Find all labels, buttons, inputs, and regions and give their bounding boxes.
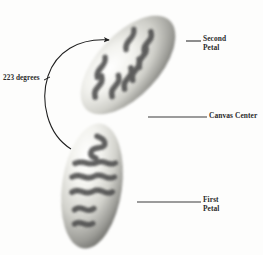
diagram-canvas: 223 degrees Second Petal Canvas Center F… [0,0,263,255]
callout-second-petal-line1: Second [203,34,226,43]
callout-first-petal-line2: Petal [203,204,220,213]
callout-canvas-center: Canvas Center [209,111,257,120]
callout-second-petal-line2: Petal [203,43,226,52]
angle-label: 223 degrees [3,74,40,83]
rotation-arrow [45,40,109,149]
callout-canvas-center-line1: Canvas Center [209,111,257,120]
callout-first-petal: First Petal [203,195,220,213]
callout-first-petal-line1: First [203,195,219,204]
callout-second-petal: Second Petal [203,34,226,52]
